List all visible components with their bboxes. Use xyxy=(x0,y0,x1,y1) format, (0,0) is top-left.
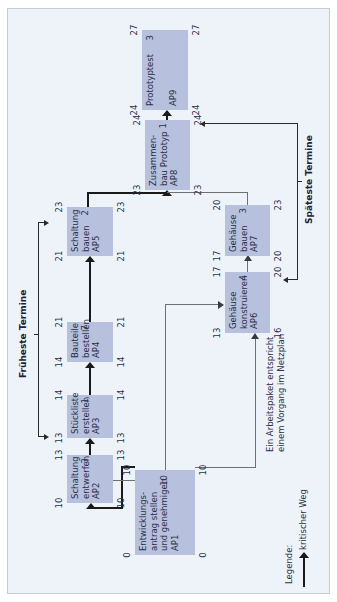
work-package-ap3: Stückliste erstellen AP3 1 xyxy=(67,395,113,438)
ap8-name: Zusammen- bau Prototyp xyxy=(148,124,169,186)
ap2-name: Schaltung entwerfen xyxy=(70,459,91,499)
legend-critical-arrow xyxy=(299,552,309,558)
ap9-id: AP9 xyxy=(168,34,179,106)
ap5-latest-end: 23 xyxy=(116,197,126,217)
arrow-into-ap4 xyxy=(85,362,95,368)
ap8-duration: 1 xyxy=(158,123,169,128)
ap5-id: AP5 xyxy=(91,211,102,252)
path-ap1-ap6-c xyxy=(255,338,256,468)
latest-bracket-right xyxy=(204,123,298,124)
netzplan-canvas: Früheste Termine Späteste Termine Ein Ar… xyxy=(0,0,337,602)
ap6-id: AP6 xyxy=(249,276,260,329)
path-ap2-ap6-b xyxy=(165,304,166,481)
earliest-bracket-h xyxy=(38,223,39,437)
work-package-ap6: Gehäuse konstruieren AP6 4 xyxy=(225,272,270,333)
latest-bracket-h xyxy=(297,123,298,280)
ap1-id: AP1 xyxy=(170,474,181,551)
ap6-name: Gehäuse konstruieren xyxy=(228,276,249,329)
arrow-into-ap6-left xyxy=(251,333,259,339)
ap7-duration: 3 xyxy=(238,208,249,213)
ap5-earliest-end: 23 xyxy=(54,197,64,217)
work-package-ap4: Bauteile bestellen AP4 7 xyxy=(67,322,113,362)
legend-critical-label: kritischer Weg xyxy=(298,489,309,550)
ap9-latest-end: 27 xyxy=(191,20,201,40)
ap8-id: AP8 xyxy=(169,124,180,186)
latest-tick xyxy=(297,181,302,182)
latest-dates-label: Späteste Termine xyxy=(304,135,314,224)
ap7-earliest-end: 20 xyxy=(212,195,222,215)
critical-path-ap4-ap5 xyxy=(89,262,91,322)
ap6-duration: 4 xyxy=(238,275,249,280)
ap7-latest-start: 20 xyxy=(273,246,283,266)
ap4-name: Bauteile bestellen xyxy=(70,326,91,358)
ap3-duration: 1 xyxy=(80,398,91,403)
arrow-into-ap8 xyxy=(162,190,172,196)
path-ap7-ap8 xyxy=(247,193,248,205)
note-line-2: einem Vorgang im Netzplan xyxy=(276,334,287,452)
ap5-name: Schaltung bauen xyxy=(70,211,91,252)
work-package-ap8: Zusammen- bau Prototyp AP8 1 xyxy=(145,120,190,190)
ap9-earliest-start: 24 xyxy=(129,100,139,120)
arrow-into-ap6-top xyxy=(218,301,224,309)
earliest-arrow-left xyxy=(44,434,49,440)
critical-path-ap2-ap3 xyxy=(89,443,91,455)
legend-critical-line xyxy=(303,557,305,587)
ap4-earliest-end: 21 xyxy=(54,312,64,332)
note-text: Ein Arbeitspaket entspricht einem Vorgan… xyxy=(265,334,287,452)
path-ap6-ap7 xyxy=(247,260,248,272)
arrow-into-ap3 xyxy=(85,438,95,444)
ap4-duration: 7 xyxy=(80,325,91,330)
arrow-into-ap2 xyxy=(86,503,96,509)
ap4-id: AP4 xyxy=(91,326,102,358)
ap4-latest-start: 14 xyxy=(116,352,126,372)
ap7-latest-end: 23 xyxy=(273,195,283,215)
ap2-latest-start: 10 xyxy=(116,493,126,513)
critical-path-ap3-ap4 xyxy=(89,368,91,395)
ap2-duration: 3 xyxy=(80,458,91,463)
earliest-dates-label: Früheste Termine xyxy=(18,290,28,378)
ap5-earliest-start: 21 xyxy=(54,246,64,266)
ap3-latest-end: 14 xyxy=(116,385,126,405)
ap3-latest-start: 13 xyxy=(116,428,126,448)
note-line-1: Ein Arbeitspaket entspricht xyxy=(265,334,276,452)
path-ap7-join-vertical xyxy=(167,192,248,193)
ap6-earliest-start: 13 xyxy=(212,323,222,343)
critical-path-join-vertical xyxy=(87,192,167,194)
ap9-earliest-end: 27 xyxy=(129,20,139,40)
ap9-name: Prototyptest xyxy=(145,34,156,106)
latest-bracket-left xyxy=(287,279,297,280)
ap3-name: Stückliste erstellen xyxy=(70,399,91,434)
ap8-earliest-start: 23 xyxy=(132,180,142,200)
ap2-id: AP2 xyxy=(91,459,102,499)
critical-path-ap5-exit xyxy=(87,192,89,207)
path-ap2-ap6-c xyxy=(165,304,220,305)
work-package-ap9: Prototyptest 3 AP9 xyxy=(142,30,188,110)
ap3-earliest-start: 13 xyxy=(54,428,64,448)
work-package-ap5: Schaltung bauen AP5 2 xyxy=(67,207,113,256)
legend-title: Legende: xyxy=(284,545,295,584)
ap9-duration: 3 xyxy=(145,35,156,40)
ap5-duration: 2 xyxy=(80,210,91,215)
work-package-ap7: Gehäuse bauen AP7 3 xyxy=(225,205,270,256)
latest-arrow-left xyxy=(283,277,288,283)
earliest-tick xyxy=(34,334,39,335)
arrow-into-ap5 xyxy=(85,256,95,262)
ap2-latest-end: 13 xyxy=(116,445,126,465)
ap7-id: AP7 xyxy=(249,209,260,252)
ap2-earliest-end: 13 xyxy=(54,445,64,465)
ap1-earliest-start: 0 xyxy=(122,545,132,565)
ap7-earliest-start: 17 xyxy=(212,246,222,266)
ap3-id: AP3 xyxy=(91,399,102,434)
ap8-latest-start: 23 xyxy=(193,180,203,200)
ap4-latest-end: 21 xyxy=(116,312,126,332)
ap3-earliest-end: 14 xyxy=(54,385,64,405)
ap9-latest-start: 24 xyxy=(191,100,201,120)
ap1-latest-end: 10 xyxy=(198,460,208,480)
ap1-latest-start: 0 xyxy=(198,545,208,565)
arrow-into-ap9 xyxy=(162,110,172,116)
work-package-ap2: Schaltung entwerfen AP2 3 xyxy=(67,455,113,503)
ap1-duration: 10 xyxy=(159,475,170,486)
work-package-ap1: Entwicklungs- antrag stellen und genehmi… xyxy=(135,470,195,555)
ap2-earliest-start: 10 xyxy=(54,493,64,513)
earliest-arrow-right xyxy=(44,220,49,226)
